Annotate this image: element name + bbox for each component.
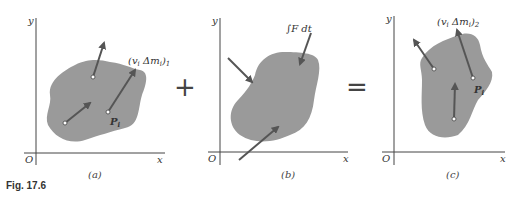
origin-label: O xyxy=(208,153,216,164)
impulse-label: ∫F dt xyxy=(286,23,313,34)
origin-label: O xyxy=(382,153,390,164)
rigid-body xyxy=(231,52,320,141)
panel-c-caption: (c) xyxy=(446,169,460,180)
x-axis-label: x xyxy=(157,154,163,165)
impulse-arrow xyxy=(228,58,252,82)
figure-caption: Fig. 17.6 xyxy=(6,180,46,191)
momentum-label: (vi Δmi)1 xyxy=(128,55,170,68)
y-axis-label: y xyxy=(27,15,34,26)
momentum-label: (vi Δmi)2 xyxy=(437,16,480,29)
panel-b-caption: (b) xyxy=(281,169,295,180)
plus-sign: + xyxy=(174,72,196,102)
panel-a-caption: (a) xyxy=(88,169,102,180)
panel-a: y x O (vi Δmi)1 Pi (a) xyxy=(24,15,170,180)
y-axis-label: y xyxy=(211,15,218,26)
origin-label: O xyxy=(25,154,33,165)
momentum-arrow xyxy=(454,84,455,119)
panel-b: y x O ∫F dt (b) xyxy=(208,15,349,180)
panel-c: y x O (vi Δmi)2 Pi (c) xyxy=(382,13,506,180)
x-axis-label: x xyxy=(343,153,349,164)
rigid-body xyxy=(47,60,146,142)
y-axis-label: y xyxy=(385,13,392,24)
x-axis-label: x xyxy=(500,153,506,164)
equals-sign: = xyxy=(346,72,368,102)
